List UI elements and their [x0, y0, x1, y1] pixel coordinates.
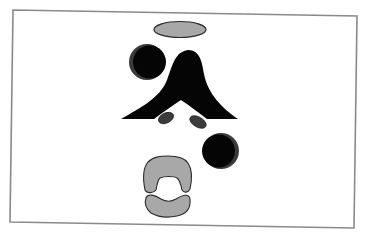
diagram-canvas: [0, 0, 368, 238]
top-gray-ellipse: [154, 22, 206, 38]
